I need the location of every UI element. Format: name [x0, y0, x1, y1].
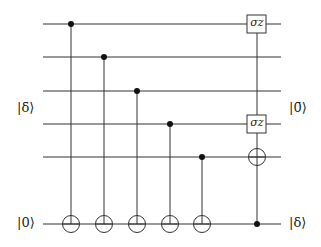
control-dot-icon [199, 154, 205, 160]
xor-crosses [63, 157, 266, 224]
control-dot-icon [134, 88, 140, 94]
cnot-gate-4 [162, 121, 179, 233]
control-dot-icon [68, 21, 74, 27]
input-label-ancilla: |0⟩ [17, 215, 35, 230]
cnot-gate-2 [96, 54, 113, 233]
cnot-gate-5 [194, 154, 211, 233]
control-dot-icon [101, 54, 107, 60]
control-dot-icon [167, 121, 173, 127]
control-dot-icon [254, 221, 260, 227]
sigma-z-label-top: σz [247, 16, 267, 29]
input-label-upper: |δ̄⟩ [17, 100, 34, 115]
sigma-z-label-mid: σz [247, 116, 267, 129]
output-label-ancilla: |δ⟩ [289, 215, 306, 230]
cnot-gate-1 [63, 21, 80, 233]
quantum-circuit [0, 0, 321, 247]
output-label-upper: |0̄⟩ [289, 100, 307, 115]
cnot-gate-3 [129, 88, 146, 233]
